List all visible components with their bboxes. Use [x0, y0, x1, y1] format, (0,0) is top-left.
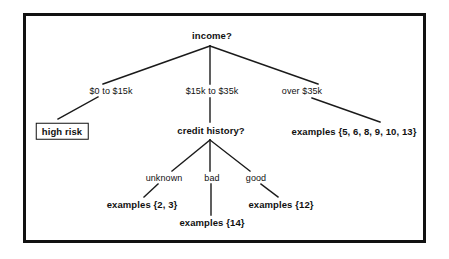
edge-good-to-examples	[261, 184, 278, 197]
edge-label-income-15k-35k: $15k to $35k	[186, 87, 239, 96]
edge-credit-to-good	[210, 140, 250, 171]
edge-unknown-to-examples	[144, 184, 158, 197]
node-examples-unknown[interactable]: examples {2, 3}	[107, 200, 178, 210]
node-examples-good[interactable]: examples {12}	[248, 200, 313, 210]
edge-credit-to-unknown	[172, 140, 210, 171]
edge-label-income-0-15k: $0 to $15k	[89, 87, 132, 96]
edge-label-income-over-35k: over $35k	[282, 87, 322, 96]
node-high-risk[interactable]: high risk	[36, 123, 89, 140]
edge-income-to-high	[210, 46, 318, 84]
edge-label-credit-good: good	[246, 174, 266, 183]
node-examples-over-35k[interactable]: examples {5, 6, 8, 9, 10, 13}	[292, 127, 417, 137]
edge-low-to-highrisk	[58, 97, 98, 119]
edge-high-to-examples	[312, 98, 380, 122]
diagram-canvas: income? $0 to $15k $15k to $35k over $35…	[0, 0, 449, 259]
node-credit-history[interactable]: credit history?	[177, 126, 245, 136]
node-income[interactable]: income?	[192, 31, 232, 41]
edge-label-credit-bad: bad	[204, 174, 219, 183]
edge-label-credit-unknown: unknown	[146, 174, 183, 183]
node-examples-bad[interactable]: examples {14}	[179, 218, 244, 228]
edge-income-to-low	[103, 46, 210, 84]
